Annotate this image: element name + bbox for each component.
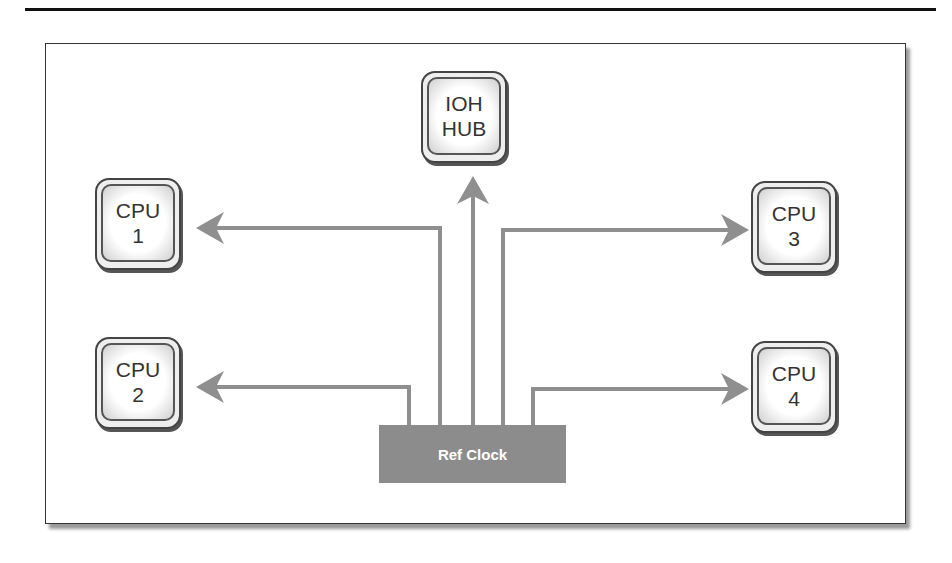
cpu4-label-1: CPU <box>772 361 816 386</box>
wire-cpu2 <box>200 387 409 425</box>
ioh-hub-label-2: HUB <box>442 116 486 141</box>
cpu2-label-2: 2 <box>132 382 144 407</box>
ref-clock-label: Ref Clock <box>438 446 507 463</box>
cpu2-node: CPU2 <box>95 337 181 429</box>
wire-cpu3 <box>503 230 745 425</box>
ioh-hub-node: IOHHUB <box>421 71 507 163</box>
cpu4-node: CPU4 <box>751 341 837 433</box>
cpu3-label-2: 3 <box>788 226 800 251</box>
ioh-hub-label-1: IOH <box>445 91 482 116</box>
cpu1-label-1: CPU <box>116 198 160 223</box>
wire-cpu1 <box>200 228 440 425</box>
cpu3-label-1: CPU <box>772 201 816 226</box>
cpu1-label-2: 1 <box>132 223 144 248</box>
cpu2-label-1: CPU <box>116 357 160 382</box>
cpu4-label-2: 4 <box>788 386 800 411</box>
ref-clock-source: Ref Clock <box>379 425 566 483</box>
cpu1-node: CPU1 <box>95 178 181 270</box>
cpu3-node: CPU3 <box>751 181 837 273</box>
wire-cpu4 <box>533 389 745 425</box>
